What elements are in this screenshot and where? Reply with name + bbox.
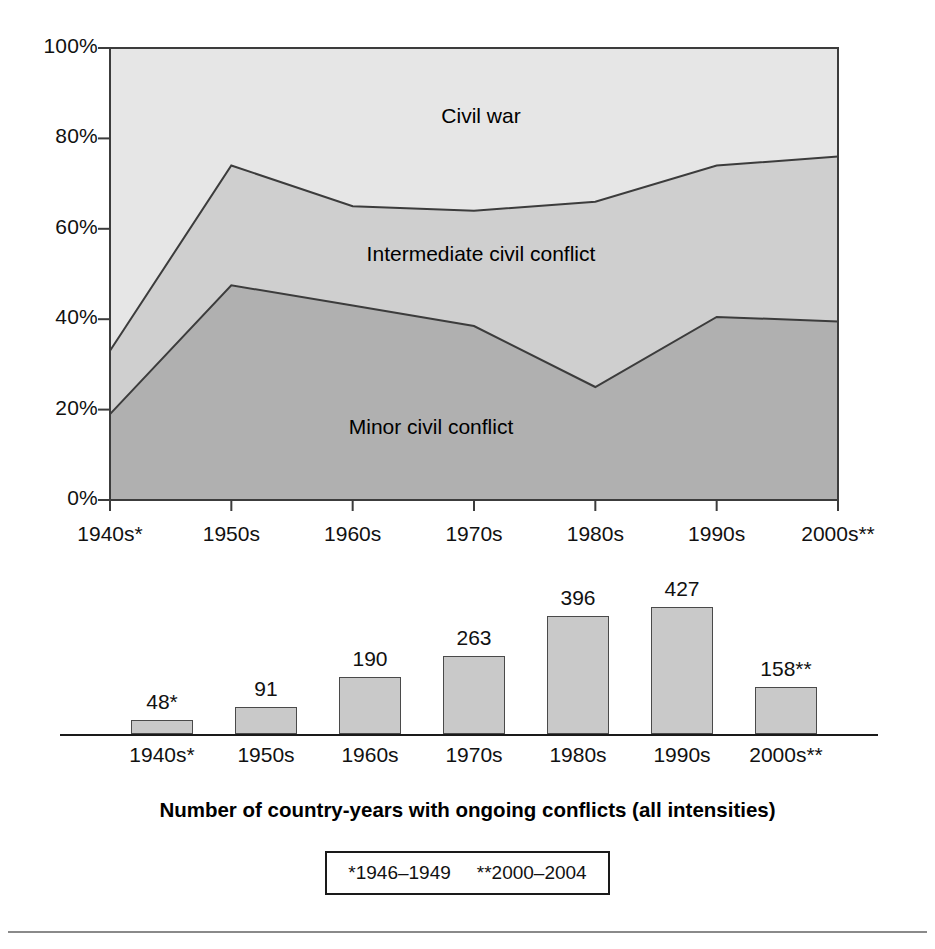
x-axis-tick-label: 1990s bbox=[688, 522, 745, 546]
x-axis-tick-label: 1970s bbox=[445, 522, 502, 546]
bar-value-label: 263 bbox=[456, 626, 491, 650]
bar-x-axis-label: 1970s bbox=[445, 743, 502, 767]
bar-chart-plot-area: 48*91190263396427158** bbox=[0, 580, 935, 734]
bar-x-axis-label: 1960s bbox=[341, 743, 398, 767]
series-label-minor-civil-conflict: Minor civil conflict bbox=[349, 415, 514, 439]
y-axis-tick-label: 40% bbox=[20, 305, 98, 329]
x-axis-tick-marks bbox=[110, 500, 838, 511]
bar-x-axis-label: 1950s bbox=[237, 743, 294, 767]
area-chart-canvas bbox=[0, 0, 935, 565]
stacked-area-chart: 100%80%60%40%20%0% 1940s*1950s1960s1970s… bbox=[0, 0, 935, 565]
bar-value-label: 190 bbox=[352, 647, 387, 671]
bar-value-label: 158** bbox=[760, 657, 811, 681]
bar bbox=[131, 720, 193, 734]
x-axis-tick-label: 1960s bbox=[324, 522, 381, 546]
y-axis-tick-label: 80% bbox=[20, 124, 98, 148]
x-axis-labels: 1940s*1950s1960s1970s1980s1990s2000s** bbox=[0, 512, 935, 552]
bar-value-label: 396 bbox=[560, 586, 595, 610]
x-axis-tick-label: 1950s bbox=[203, 522, 260, 546]
bar-x-axis-label: 1980s bbox=[549, 743, 606, 767]
figure-container: 100%80%60%40%20%0% 1940s*1950s1960s1970s… bbox=[0, 0, 935, 949]
bar-value-label: 427 bbox=[664, 577, 699, 601]
chart-caption: Number of country-years with ongoing con… bbox=[0, 798, 935, 822]
bottom-divider bbox=[8, 931, 927, 933]
bar-value-label: 91 bbox=[254, 677, 277, 701]
bar-chart: 48*91190263396427158** 1940s*1950s1960s1… bbox=[0, 580, 935, 790]
bar-x-axis-label: 1990s bbox=[653, 743, 710, 767]
footnote-item-1: *1946–1949 bbox=[348, 862, 451, 884]
x-axis-tick-label: 1980s bbox=[567, 522, 624, 546]
y-axis-tick-marks bbox=[98, 48, 110, 500]
bar-value-label: 48* bbox=[146, 690, 178, 714]
bar bbox=[235, 707, 297, 734]
footnote-box: *1946–1949 **2000–2004 bbox=[325, 851, 610, 895]
y-axis-tick-label: 20% bbox=[20, 396, 98, 420]
bar bbox=[339, 677, 401, 734]
bar bbox=[651, 607, 713, 734]
series-label-civil-war: Civil war bbox=[441, 104, 520, 128]
y-axis-labels: 100%80%60%40%20%0% bbox=[12, 0, 98, 520]
x-axis-tick-label: 1940s* bbox=[77, 522, 142, 546]
y-axis-tick-label: 0% bbox=[20, 486, 98, 510]
bar bbox=[443, 656, 505, 734]
y-axis-tick-label: 60% bbox=[20, 215, 98, 239]
bar bbox=[547, 616, 609, 734]
bar-x-axis-label: 1940s* bbox=[129, 743, 194, 767]
bar-chart-baseline bbox=[60, 734, 878, 736]
bar bbox=[755, 687, 817, 734]
series-label-intermediate-civil-conflict: Intermediate civil conflict bbox=[367, 242, 596, 266]
footnote-item-2: **2000–2004 bbox=[477, 862, 587, 884]
y-axis-tick-label: 100% bbox=[20, 34, 98, 58]
bar-x-axis-label: 2000s** bbox=[749, 743, 823, 767]
x-axis-tick-label: 2000s** bbox=[801, 522, 875, 546]
